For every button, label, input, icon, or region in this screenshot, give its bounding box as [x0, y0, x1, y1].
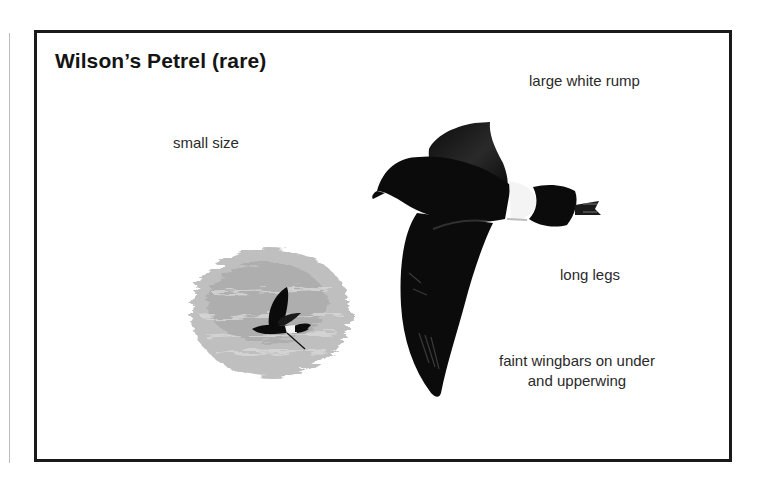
annotation-faint-wingbars-line1: faint wingbars on under	[499, 351, 655, 371]
annotation-faint-wingbars-line2: and upperwing	[499, 371, 655, 391]
annotation-faint-wingbars: faint wingbars on under and upperwing	[499, 351, 655, 391]
page-margin-line	[9, 33, 10, 463]
plate-frame: Wilson’s Petrel (rare)	[34, 30, 732, 462]
annotation-large-white-rump: large white rump	[529, 71, 640, 91]
annotation-small-size: small size	[173, 133, 239, 153]
annotation-long-legs: long legs	[560, 265, 620, 285]
illustration	[37, 33, 729, 459]
